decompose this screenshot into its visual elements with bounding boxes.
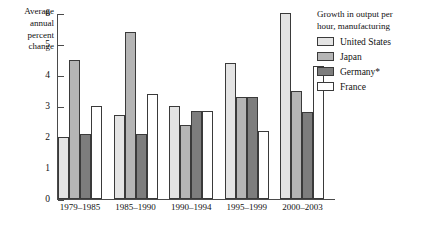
bar-group [114,13,158,199]
bar [302,112,313,199]
bar [191,111,202,199]
plot-area: 0123456 1979–19851985–19901990–19941995–… [57,14,335,200]
legend-item-label: Germany* [340,67,380,77]
bar [91,106,102,199]
bar [69,60,80,200]
legend-title-line: Growth in output per [317,9,423,21]
bar [291,91,302,200]
y-axis-tick-label: 1 [24,163,50,173]
bar [202,111,213,199]
y-axis-tick-label: 5 [24,39,50,49]
bar [125,32,136,199]
bar [80,134,91,199]
legend-item[interactable]: France [317,80,423,93]
y-axis-title-line: annual [2,18,54,30]
y-axis-tick-label: 3 [24,101,50,111]
y-axis-tick-label: 2 [24,132,50,142]
legend-item[interactable]: Germany* [317,65,423,78]
legend-item-label: United States [340,37,391,47]
legend-title: Growth in output per hour, manufacturing [317,9,423,32]
bar [280,13,291,199]
legend-title-line: hour, manufacturing [317,21,423,33]
y-axis-tick [58,200,64,201]
legend-swatch-icon [317,37,334,46]
legend-item-label: France [340,82,366,92]
legend-item-label: Japan [340,52,362,62]
legend-item[interactable]: United States [317,35,423,48]
bar [169,106,180,199]
bar [225,63,236,199]
legend-swatch-icon [317,67,334,76]
bar [147,94,158,199]
bar [236,97,247,199]
legend-swatch-icon [317,52,334,61]
y-axis-tick-label: 4 [24,70,50,80]
bar [136,134,147,199]
legend-item[interactable]: Japan [317,50,423,63]
bar-chart: Average annual percent change 0123456 19… [0,0,425,232]
y-axis-tick-label: 6 [24,8,50,18]
x-axis-line [57,199,335,200]
bar-group [225,13,269,199]
chart-legend: Growth in output per hour, manufacturing… [317,9,423,95]
bar [247,97,258,199]
bar-group [169,13,213,199]
bar-group [58,13,102,199]
bar [258,131,269,199]
bar [58,137,69,199]
x-axis-label: 2000–2003 [264,202,340,212]
legend-entries: United StatesJapanGermany*France [317,35,423,93]
legend-swatch-icon [317,82,334,91]
bar [114,115,125,199]
bar [180,125,191,199]
